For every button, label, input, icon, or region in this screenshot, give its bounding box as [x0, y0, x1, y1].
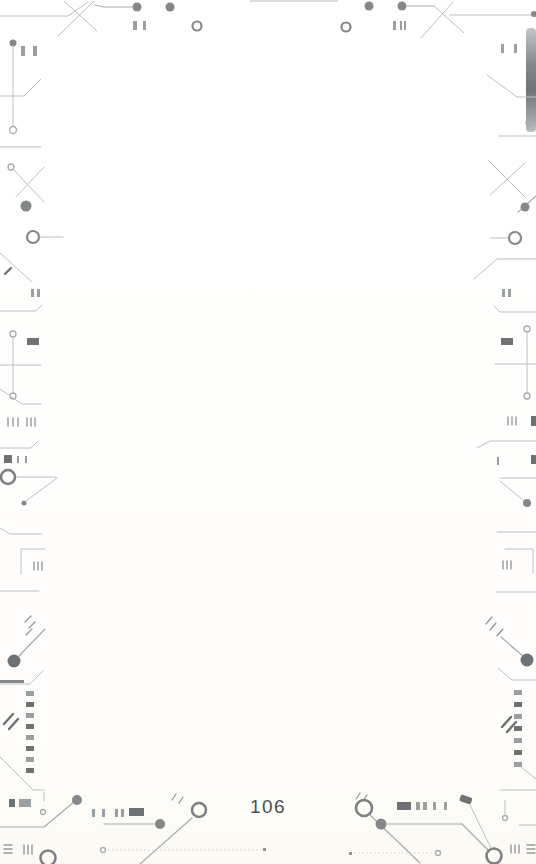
circuit-bottom-right [349, 790, 536, 864]
tick-marks [4, 845, 32, 854]
circuit-border-decoration [0, 0, 536, 864]
smd-pad [27, 338, 39, 345]
open-ring [1, 470, 15, 484]
smd-pad-row [92, 808, 144, 817]
via-dot [72, 795, 82, 805]
open-ring [27, 231, 39, 243]
circuit-top-left [0, 0, 338, 36]
open-ring [509, 232, 521, 244]
via-dot [8, 655, 21, 668]
via-dot [21, 201, 32, 212]
page-number: 106 [238, 796, 298, 818]
via-dot [133, 3, 142, 12]
circuit-top-right [342, 2, 536, 39]
via-dot [521, 654, 534, 667]
circuit-right-edge [474, 28, 536, 779]
tick-marks [8, 418, 35, 426]
ic-pin-column [26, 691, 34, 773]
open-ring [487, 849, 502, 864]
circuit-left-edge [0, 40, 63, 685]
smd-pad [501, 338, 513, 345]
via-dot [521, 203, 530, 212]
open-ring [356, 800, 372, 816]
via-dot [376, 819, 387, 830]
book-page: 106 [0, 0, 536, 864]
circuit-bottom-left [0, 680, 266, 864]
tick-marks [503, 561, 511, 569]
ic-pin-column [514, 690, 522, 767]
via-dot [398, 2, 407, 11]
via-dot [166, 3, 175, 12]
open-ring [193, 22, 202, 31]
tick-marks [511, 845, 535, 853]
open-ring [192, 803, 206, 817]
edge-gradient-bar [526, 28, 536, 132]
tick-marks [508, 417, 516, 425]
via-dot [155, 819, 165, 829]
tick-marks [34, 562, 42, 570]
open-ring [342, 23, 351, 32]
smd-pad [459, 794, 473, 804]
smd-pad-row [397, 802, 447, 810]
open-ring [41, 851, 56, 864]
via-dot [365, 2, 374, 11]
